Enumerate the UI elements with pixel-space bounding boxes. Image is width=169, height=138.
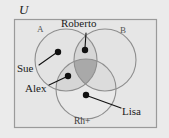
element-label-alex: Alex (25, 83, 46, 94)
dot-alex (65, 73, 71, 79)
set-rh-label: Rh+ (74, 117, 90, 127)
universal-set-label: U (19, 3, 28, 16)
venn-diagram-figure: U A B Rh+ Roberto Sue Alex Lisa (0, 0, 169, 138)
element-label-roberto: Roberto (61, 18, 96, 29)
dot-lisa (83, 92, 89, 98)
dot-roberto (82, 47, 88, 53)
set-b-label: B (120, 26, 126, 35)
element-label-sue: Sue (17, 63, 34, 74)
dot-sue (55, 49, 61, 55)
element-label-lisa: Lisa (122, 106, 141, 117)
set-a-label: A (37, 25, 44, 34)
